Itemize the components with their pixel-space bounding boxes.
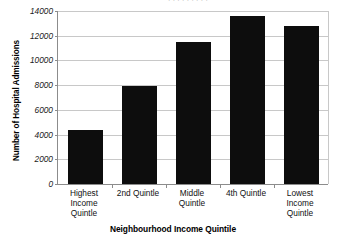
clipped-chart-title: · · · · · · · · ·	[168, 0, 343, 4]
x-category-label-line: 2nd Quintle	[111, 188, 165, 198]
y-tick-label: 0	[48, 179, 53, 189]
x-category-label: 4th Quintle	[219, 188, 273, 198]
bar	[68, 130, 103, 184]
bar	[230, 16, 265, 184]
x-category-label-line: Quintle	[273, 208, 327, 218]
x-category-label-line: Income	[57, 198, 111, 208]
y-tick-label: 6000	[35, 105, 53, 115]
x-category-label: LowestIncomeQuintle	[273, 188, 327, 219]
x-category-label-line: Lowest	[273, 188, 327, 198]
x-axis-baseline	[58, 184, 328, 185]
x-category-label-line: 4th Quintle	[219, 188, 273, 198]
x-category-label: MiddleQuintle	[165, 188, 219, 208]
bar	[176, 42, 211, 184]
bars-group	[58, 11, 328, 184]
x-category-label: HighestIncomeQuintle	[57, 188, 111, 219]
y-tick-label: 2000	[35, 154, 53, 164]
x-category-label-line: Income	[273, 198, 327, 208]
bar	[284, 26, 319, 184]
y-tick-label: 14000	[30, 6, 53, 16]
y-tick-label: 12000	[30, 31, 53, 41]
y-tick-label: 10000	[30, 55, 53, 65]
x-category-label-line: Quintle	[165, 198, 219, 208]
bar-chart: · · · · · · · · · Number of Hospital Adm…	[0, 0, 346, 239]
y-axis-title: Number of Hospital Admissions	[12, 21, 21, 181]
plot-area: 02000400060008000100001200014000	[57, 11, 329, 184]
x-category-label-line: Highest	[57, 188, 111, 198]
y-tick-label: 8000	[35, 80, 53, 90]
x-axis-title: Neighbourhood Income Quintile	[0, 224, 346, 234]
x-category-label-line: Middle	[165, 188, 219, 198]
x-category-labels: HighestIncomeQuintle2nd QuintleMiddleQui…	[57, 188, 329, 228]
bar	[122, 86, 157, 184]
x-category-label: 2nd Quintle	[111, 188, 165, 198]
y-tick-mark	[55, 184, 58, 185]
x-category-label-line: Quintle	[57, 208, 111, 218]
y-tick-label: 4000	[35, 130, 53, 140]
